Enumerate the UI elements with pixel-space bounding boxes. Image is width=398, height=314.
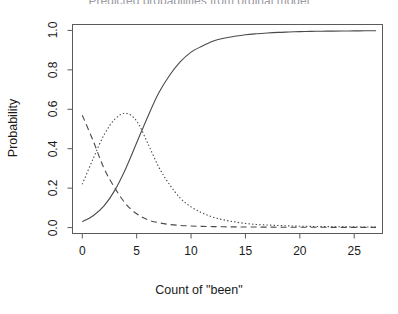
y-tick-label: 0.4 (46, 137, 60, 161)
x-axis-label: Count of "been" (0, 283, 398, 297)
y-tick-label: 0.6 (46, 97, 60, 121)
data-curves (82, 31, 376, 228)
x-axis-ticks (82, 234, 354, 239)
chart-figure: Predicted probabilities from ordinal mod… (0, 0, 398, 314)
y-tick-label: 0.2 (46, 176, 60, 200)
curve-solid (82, 31, 376, 222)
x-tick-label: 5 (133, 244, 140, 258)
y-axis-ticks (68, 30, 73, 227)
y-tick-label: 1.0 (46, 18, 60, 42)
x-tick-label: 0 (79, 244, 86, 258)
x-tick-label: 20 (293, 244, 306, 258)
x-tick-label: 15 (239, 244, 252, 258)
curve-dotted (82, 113, 376, 227)
y-tick-label: 0.8 (46, 58, 60, 82)
y-tick-label: 0.0 (46, 216, 60, 240)
axis-box (73, 25, 383, 234)
x-tick-label: 10 (184, 244, 197, 258)
y-axis-label: Probability (6, 99, 20, 157)
x-tick-label: 25 (348, 244, 361, 258)
curve-dashed (82, 115, 376, 227)
